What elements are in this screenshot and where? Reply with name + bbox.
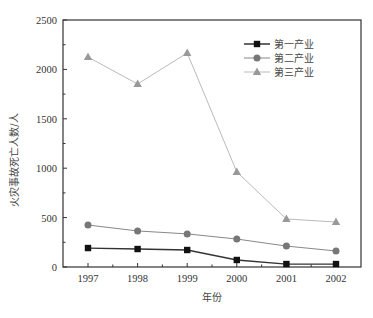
plot-area [63,20,361,267]
series-line [88,225,336,251]
y-tick-label: 1000 [36,163,57,174]
legend-item: 第三产业 [244,66,314,78]
legend-square-icon [254,41,260,47]
x-tick-label: 2002 [326,273,347,284]
x-tick-label: 1999 [177,273,198,284]
data-point-triangle [84,53,92,61]
series-line [88,248,336,264]
data-point-square [283,261,289,267]
data-point-triangle [233,167,241,175]
data-point-triangle [133,80,141,88]
data-point-circle [283,243,290,250]
data-point-square [333,261,339,267]
series-line [88,53,336,222]
legend-item: 第一产业 [244,38,314,50]
data-point-triangle [183,48,191,56]
x-tick-label: 1997 [78,273,99,284]
legend-triangle-icon [253,68,261,76]
data-point-circle [233,236,240,243]
y-axis: 05001000150020002500 [36,15,67,273]
series-circle [85,222,340,255]
legend-circle-icon [254,55,261,62]
y-tick-label: 1500 [36,114,57,125]
legend-item: 第二产业 [244,52,314,64]
legend-label: 第三产业 [274,66,314,78]
y-tick-label: 2500 [36,15,57,26]
x-tick-label: 2000 [226,273,247,284]
y-tick-label: 500 [41,213,57,224]
y-tick-label: 2000 [36,64,57,75]
x-axis: 199719981999200020012002 [78,263,347,284]
series-group [84,48,340,267]
y-tick-label: 0 [52,262,57,273]
data-point-circle [134,227,141,234]
data-point-circle [333,247,340,254]
data-point-circle [184,230,191,237]
x-tick-label: 2001 [276,273,297,284]
data-point-circle [85,222,92,229]
x-axis-title: 年份 [202,291,222,303]
data-point-square [85,245,91,251]
series-square [85,245,339,267]
legend-label: 第一产业 [274,38,314,50]
y-axis-title: 火灾事故死亡人数/人 [8,113,20,206]
data-point-square [134,246,140,252]
line-chart: 05001000150020002500 1997199819992000200… [0,0,373,318]
plot-frame [63,20,361,267]
data-point-square [234,257,240,263]
legend-label: 第二产业 [274,52,314,64]
x-tick-label: 1998 [127,273,148,284]
data-point-triangle [332,218,340,226]
legend: 第一产业第二产业第三产业 [244,38,314,78]
data-point-square [184,247,190,253]
